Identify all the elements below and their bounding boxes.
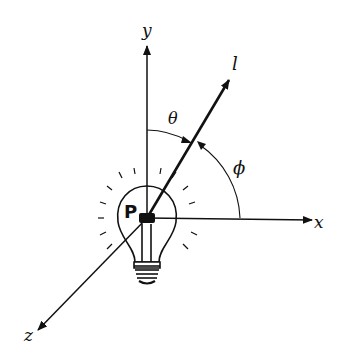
point-p-marker	[139, 213, 155, 223]
z-axis-label: z	[23, 325, 34, 345]
phi-arc	[197, 141, 240, 218]
point-p-label: P	[124, 201, 137, 222]
spherical-coordinates-diagram: y x z l θ ϕ P	[0, 0, 341, 347]
theta-label: θ	[168, 109, 178, 128]
z-axis	[38, 218, 147, 330]
direction-vector-l	[147, 80, 229, 218]
x-axis-label: x	[314, 212, 324, 232]
y-axis-label: y	[141, 20, 152, 40]
vector-l-label: l	[232, 53, 238, 74]
theta-arc	[147, 130, 192, 143]
phi-label: ϕ	[233, 157, 245, 178]
